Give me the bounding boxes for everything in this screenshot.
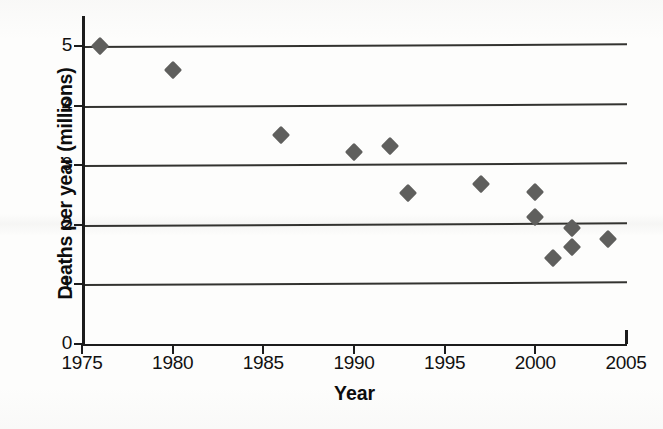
gridline-y-3 bbox=[82, 163, 627, 168]
x-tick-label-1975: 1975 bbox=[45, 352, 119, 374]
x-tick-2005 bbox=[625, 332, 627, 344]
data-point bbox=[472, 175, 490, 193]
x-axis-title: Year bbox=[82, 382, 627, 405]
data-point bbox=[562, 238, 580, 256]
data-point bbox=[272, 126, 290, 144]
gridline-y-1 bbox=[82, 282, 627, 287]
data-point bbox=[381, 137, 399, 155]
x-tick-label-1995: 1995 bbox=[408, 352, 482, 374]
data-point bbox=[544, 249, 562, 267]
data-point bbox=[91, 37, 109, 55]
data-point bbox=[399, 184, 417, 202]
x-tick-label-1985: 1985 bbox=[226, 352, 300, 374]
x-tick-label-1980: 1980 bbox=[136, 352, 210, 374]
gridline-y-4 bbox=[82, 103, 627, 108]
data-point bbox=[345, 143, 363, 161]
data-point bbox=[163, 61, 181, 79]
scanned-figure: 012345 1975198019851990199520002005 Deat… bbox=[0, 0, 663, 429]
x-tick-label-2005: 2005 bbox=[589, 352, 663, 374]
scatter-plot: 012345 1975198019851990199520002005 Deat… bbox=[0, 0, 663, 429]
gridline-y-2 bbox=[82, 222, 627, 227]
data-point bbox=[599, 229, 617, 247]
data-point bbox=[526, 183, 544, 201]
data-point bbox=[562, 219, 580, 237]
y-axis-title: Deaths per year (millions) bbox=[54, 24, 77, 344]
gridline-y-5 bbox=[82, 43, 627, 48]
x-tick-label-1990: 1990 bbox=[317, 352, 391, 374]
x-tick-label-2000: 2000 bbox=[498, 352, 572, 374]
y-axis-line bbox=[82, 16, 85, 346]
